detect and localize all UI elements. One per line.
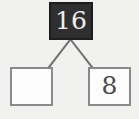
- connector-line-right: [71, 40, 92, 67]
- child-node-box-left[interactable]: [10, 67, 53, 106]
- child-node-value-right: 8: [102, 73, 118, 98]
- parent-node-box[interactable]: 16: [49, 2, 93, 40]
- child-node-box-right[interactable]: 8: [88, 67, 131, 106]
- number-bond-diagram: 16 8: [0, 0, 139, 119]
- parent-node-value: 16: [55, 8, 87, 33]
- connector-line-left: [49, 40, 70, 67]
